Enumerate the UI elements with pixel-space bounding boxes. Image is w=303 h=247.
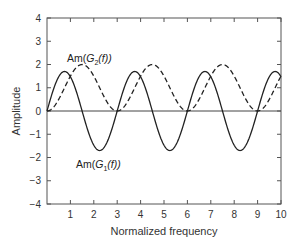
y-tick-label: 3 [35, 36, 41, 47]
chart: 1234567891043210−1−2−3−4 Am(G2(f)) Am(G1… [0, 0, 303, 247]
x-tick-label: 7 [208, 209, 214, 220]
x-tick-label: 3 [114, 209, 120, 220]
x-tick-label: 5 [161, 209, 167, 220]
y-axis-label: Amplitude [10, 87, 22, 136]
y-tick-label: −3 [30, 175, 42, 186]
series-g2 [47, 65, 281, 112]
y-tick-label: 2 [35, 59, 41, 70]
annotation-g2: Am(G2(f)) [67, 52, 112, 66]
x-tick-label: 8 [231, 209, 237, 220]
x-tick-label: 2 [91, 209, 97, 220]
annotation-g1: Am(G1(f)) [76, 158, 121, 172]
x-tick-label: 4 [138, 209, 144, 220]
y-tick-label: −4 [30, 199, 42, 210]
plot-axes: 1234567891043210−1−2−3−4 [30, 13, 287, 221]
x-axis-label: Normalized frequency [111, 225, 218, 237]
x-tick-label: 6 [185, 209, 191, 220]
y-tick-label: 1 [35, 82, 41, 93]
y-tick-label: −2 [30, 152, 42, 163]
y-tick-label: 4 [35, 13, 41, 24]
x-tick-label: 1 [68, 209, 74, 220]
x-tick-label: 9 [255, 209, 261, 220]
y-tick-label: −1 [30, 129, 42, 140]
y-tick-label: 0 [35, 106, 41, 117]
x-tick-label: 10 [275, 209, 287, 220]
plot-series [47, 65, 281, 151]
